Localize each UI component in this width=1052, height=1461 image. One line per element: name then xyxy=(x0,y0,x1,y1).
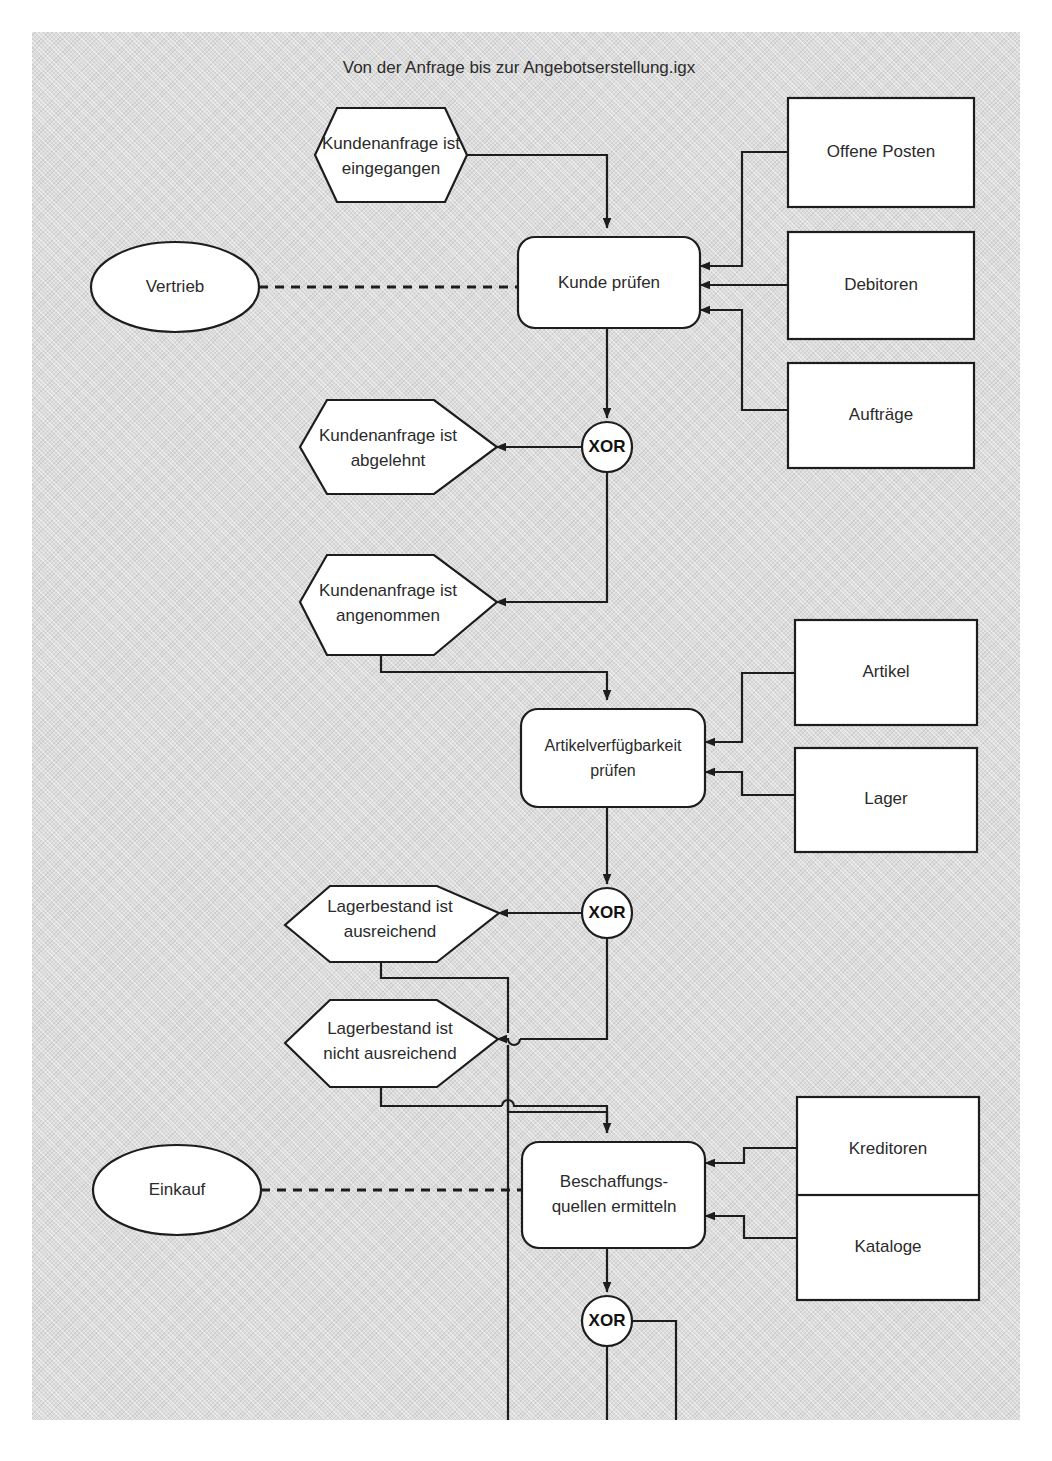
function-label-line2: prüfen xyxy=(590,762,635,779)
xor-label: XOR xyxy=(589,903,626,922)
flow-artikel-to-artikelverfuegbarkeit xyxy=(705,673,795,742)
event-label-line2: ausreichend xyxy=(344,922,437,941)
event-kundenanfrage-abgelehnt[interactable]: Kundenanfrage ist abgelehnt xyxy=(300,400,497,494)
xor-label: XOR xyxy=(589,437,626,456)
flow-nicht-ausreichend-to-beschaffung-b xyxy=(502,1100,607,1133)
event-label-line1: Kundenanfrage ist xyxy=(322,134,460,153)
connector-xor-beschaffung[interactable]: XOR xyxy=(582,1296,632,1346)
xor-label: XOR xyxy=(589,1311,626,1330)
event-hexagon xyxy=(300,400,497,494)
event-hexagon xyxy=(315,108,467,202)
function-label-line1: Beschaffungs- xyxy=(560,1172,668,1191)
function-beschaffungsquellen-ermitteln[interactable]: Beschaffungs- quellen ermitteln xyxy=(522,1142,705,1248)
function-box xyxy=(521,709,705,807)
event-kundenanfrage-eingegangen[interactable]: Kundenanfrage ist eingegangen xyxy=(315,108,467,202)
org-unit-label: Einkauf xyxy=(149,1180,206,1199)
flow-nicht-ausreichend-to-beschaffung-a xyxy=(381,1087,502,1106)
data-object-kataloge[interactable]: Kataloge xyxy=(797,1195,979,1300)
flow-auftraege-to-kunde-pruefen xyxy=(700,310,788,410)
data-object-offene-posten[interactable]: Offene Posten xyxy=(788,98,974,207)
flow-lager-to-artikelverfuegbarkeit xyxy=(705,772,795,795)
event-lagerbestand-ausreichend[interactable]: Lagerbestand ist ausreichend xyxy=(285,886,499,962)
data-object-label: Artikel xyxy=(862,662,909,681)
data-object-artikel[interactable]: Artikel xyxy=(795,620,977,725)
data-object-label: Debitoren xyxy=(844,275,918,294)
event-kundenanfrage-angenommen[interactable]: Kundenanfrage ist angenommen xyxy=(300,555,497,655)
flow-kataloge-to-beschaffung xyxy=(705,1216,797,1238)
function-artikelverfuegbarkeit-pruefen[interactable]: Artikelverfügbarkeit prüfen xyxy=(521,709,705,807)
event-label-line2: nicht ausreichend xyxy=(323,1044,456,1063)
data-object-label: Offene Posten xyxy=(827,142,935,161)
event-label-line1: Lagerbestand ist xyxy=(327,897,453,916)
event-label-line2: abgelehnt xyxy=(351,451,426,470)
function-label-line2: quellen ermitteln xyxy=(552,1197,677,1216)
event-label-line1: Kundenanfrage ist xyxy=(319,426,457,445)
event-label-line1: Lagerbestand ist xyxy=(327,1019,453,1038)
data-object-label: Kreditoren xyxy=(849,1139,927,1158)
event-label-line2: angenommen xyxy=(336,606,440,625)
event-label-line2: eingegangen xyxy=(342,159,440,178)
data-object-label: Kataloge xyxy=(854,1237,921,1256)
data-object-label: Aufträge xyxy=(849,405,913,424)
connector-xor-lager[interactable]: XOR xyxy=(582,888,632,938)
function-box xyxy=(522,1142,705,1248)
flow-kreditoren-to-beschaffung xyxy=(705,1148,797,1163)
connector-xor-kunde[interactable]: XOR xyxy=(582,422,632,472)
flow-ausreichend-down-2 xyxy=(508,1045,607,1133)
diagram-title: Von der Anfrage bis zur Angebotserstellu… xyxy=(343,58,696,77)
flow-eingegangen-to-kunde-pruefen xyxy=(466,155,607,228)
flow-xor3-branch-right xyxy=(631,1321,676,1420)
data-object-lager[interactable]: Lager xyxy=(795,748,977,852)
flow-offene-posten-to-kunde-pruefen xyxy=(700,152,788,266)
org-unit-einkauf[interactable]: Einkauf xyxy=(93,1145,261,1235)
event-hexagon xyxy=(300,555,497,655)
event-label-line1: Kundenanfrage ist xyxy=(319,581,457,600)
org-unit-label: Vertrieb xyxy=(146,277,205,296)
flow-angenommen-to-artikelverfuegbarkeit xyxy=(381,655,607,700)
epc-diagram-canvas: Von der Anfrage bis zur Angebotserstellu… xyxy=(0,0,1052,1461)
data-object-auftraege[interactable]: Aufträge xyxy=(788,363,974,468)
function-label-line1: Artikelverfügbarkeit xyxy=(545,737,683,754)
function-kunde-pruefen[interactable]: Kunde prüfen xyxy=(518,237,700,328)
org-unit-vertrieb[interactable]: Vertrieb xyxy=(91,242,259,332)
data-object-debitoren[interactable]: Debitoren xyxy=(788,232,974,339)
data-object-kreditoren[interactable]: Kreditoren xyxy=(797,1097,979,1203)
epc-diagram-page: Von der Anfrage bis zur Angebotserstellu… xyxy=(0,0,1052,1461)
function-label-line1: Kunde prüfen xyxy=(558,273,660,292)
flow-xor2-to-nicht-ausreichend-segment xyxy=(520,937,607,1039)
data-object-label: Lager xyxy=(864,789,908,808)
flow-xor2-to-nicht-ausreichend-hop xyxy=(497,1039,520,1045)
flow-xor1-to-angenommen xyxy=(496,471,607,602)
event-lagerbestand-nicht-ausreichend[interactable]: Lagerbestand ist nicht ausreichend xyxy=(285,1000,498,1087)
